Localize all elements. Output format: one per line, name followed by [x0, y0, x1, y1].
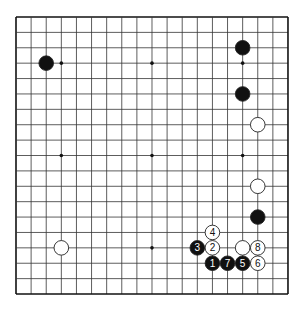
star-point — [60, 61, 64, 65]
stone-shape — [54, 241, 69, 256]
go-board[interactable]: 42381756 — [0, 0, 298, 311]
move-number-label: 6 — [255, 258, 261, 269]
move-number-label: 4 — [210, 227, 216, 238]
star-point — [60, 154, 64, 158]
black-stone[interactable]: 5 — [235, 256, 250, 271]
stone-shape — [250, 210, 265, 225]
stone-shape — [235, 40, 250, 55]
stone-shape — [235, 241, 250, 256]
white-stone[interactable]: 2 — [205, 241, 220, 256]
black-stone[interactable] — [250, 210, 265, 225]
stone-shape — [39, 56, 54, 71]
white-stone[interactable] — [250, 117, 265, 132]
move-number-label: 5 — [240, 258, 246, 269]
move-number-label: 1 — [210, 258, 216, 269]
move-number-label: 7 — [225, 258, 231, 269]
star-point — [241, 154, 245, 158]
black-stone[interactable]: 3 — [190, 241, 205, 256]
star-point — [150, 246, 154, 250]
white-stone[interactable] — [250, 179, 265, 194]
black-stone[interactable]: 1 — [205, 256, 220, 271]
white-stone[interactable] — [54, 241, 69, 256]
black-stone[interactable] — [235, 40, 250, 55]
stone-shape — [235, 87, 250, 102]
black-stone[interactable]: 7 — [220, 256, 235, 271]
stone-shape — [250, 179, 265, 194]
black-stone[interactable] — [235, 87, 250, 102]
white-stone[interactable]: 8 — [250, 241, 265, 256]
star-point — [241, 61, 245, 65]
white-stone[interactable]: 4 — [205, 225, 220, 240]
black-stone[interactable] — [39, 56, 54, 71]
stone-shape — [250, 117, 265, 132]
move-number-label: 3 — [195, 242, 201, 253]
move-number-label: 8 — [255, 242, 261, 253]
white-stone[interactable]: 6 — [250, 256, 265, 271]
white-stone[interactable] — [235, 241, 250, 256]
star-point — [150, 61, 154, 65]
move-number-label: 2 — [210, 242, 216, 253]
star-point — [150, 154, 154, 158]
